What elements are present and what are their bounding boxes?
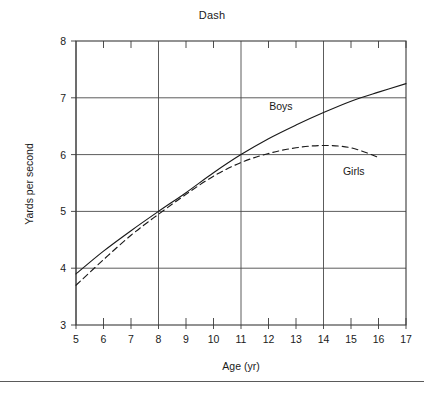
x-tick-label: 11	[236, 333, 247, 345]
x-tick-label: 9	[183, 333, 189, 345]
x-tick-label: 13	[290, 333, 302, 345]
x-tick-label: 10	[208, 333, 220, 345]
x-tick-label: 8	[156, 333, 162, 345]
x-tick-label: 16	[373, 333, 385, 345]
y-tick-label: 6	[60, 149, 66, 161]
x-axis-label: Age (yr)	[76, 360, 406, 372]
gridlines	[76, 41, 406, 325]
axis-ticks	[71, 41, 406, 329]
x-tick-label: 7	[128, 333, 134, 345]
y-tick-label: 4	[60, 262, 66, 274]
x-tick-label: 17	[400, 333, 412, 345]
axis-tick-labels: 567891011121314151617345678	[60, 35, 412, 345]
series-label-boys: Boys	[269, 100, 292, 112]
x-tick-label: 14	[318, 333, 330, 345]
x-tick-label: 15	[345, 333, 357, 345]
series-line-girls	[76, 146, 379, 286]
y-tick-label: 8	[60, 35, 66, 47]
x-tick-label: 6	[101, 333, 107, 345]
footer-divider	[0, 381, 424, 382]
x-tick-label: 5	[73, 333, 79, 345]
line-chart-plot: 567891011121314151617345678 BoysGirls	[0, 0, 424, 393]
figure-container: Dash Yards per second 567891011121314151…	[0, 0, 424, 393]
y-tick-label: 7	[60, 92, 66, 104]
y-tick-label: 3	[60, 319, 66, 331]
y-tick-label: 5	[60, 205, 66, 217]
series-label-girls: Girls	[343, 165, 365, 177]
x-tick-label: 12	[263, 333, 275, 345]
series-annotations: BoysGirls	[269, 100, 364, 177]
